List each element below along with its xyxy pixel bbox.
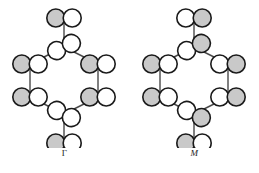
- orbital-bottom-axial-lobe-left: [177, 134, 195, 148]
- orbital-upper-right-lobe-left: [211, 55, 229, 73]
- orbital-phase-figure: Γ M: [0, 0, 259, 173]
- orbital-bottom-axial-lobe-left: [47, 134, 65, 148]
- orbital-top-axial-lobe-left: [47, 9, 65, 27]
- orbital-upper-right-lobe-right: [97, 55, 115, 73]
- orbital-top-axial-lobe-right: [63, 9, 81, 27]
- orbital-upper-left-lobe-left: [13, 55, 31, 73]
- orbital-upper-left-lobe-right: [29, 55, 47, 73]
- orbital-diagram-m: [130, 0, 259, 148]
- orbital-upper-right-lobe-right: [227, 55, 245, 73]
- orbital-bottom-axial-lobe-right: [193, 134, 211, 148]
- orbital-lower-right-lobe-right: [227, 88, 245, 106]
- orbital-lower-right-lobe-left: [81, 88, 99, 106]
- orbital-lower-right-lobe-right: [97, 88, 115, 106]
- orbital-lower-left-lobe-right: [29, 88, 47, 106]
- orbital-diagram-gamma: [0, 0, 129, 148]
- orbital-lower-right-lobe-left: [211, 88, 229, 106]
- orbital-top-axial-lobe-right: [193, 9, 211, 27]
- panel-label-m: M: [130, 148, 259, 158]
- orbital-upper-right-lobe-left: [81, 55, 99, 73]
- orbital-lower-left-lobe-right: [159, 88, 177, 106]
- orbital-top-axial-lobe-left: [177, 9, 195, 27]
- panel-label-gamma: Γ: [0, 148, 129, 158]
- orbital-lower-left-lobe-left: [143, 88, 161, 106]
- orbital-bottom-axial-lobe-right: [63, 134, 81, 148]
- orbital-upper-left-lobe-right: [159, 55, 177, 73]
- orbital-upper-left-lobe-left: [143, 55, 161, 73]
- orbital-lower-left-lobe-left: [13, 88, 31, 106]
